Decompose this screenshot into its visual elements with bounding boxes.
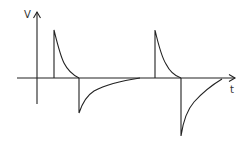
negative-spike-2 <box>181 78 222 136</box>
t-axis-label: t <box>230 84 234 95</box>
negative-spike-1 <box>79 78 140 113</box>
v-axis-label: V <box>24 9 31 20</box>
positive-spike-2 <box>155 30 181 78</box>
positive-spike-1 <box>54 30 79 78</box>
waveform-diagram: V t <box>0 0 246 141</box>
